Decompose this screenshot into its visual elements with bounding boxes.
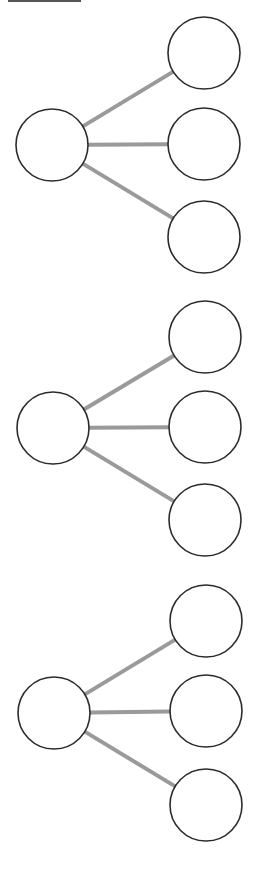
child-node-3 <box>168 201 240 273</box>
child-node-2 <box>168 108 240 180</box>
tree-group-2 <box>17 301 241 556</box>
child-node-3 <box>170 769 242 841</box>
root-node <box>18 677 90 749</box>
tree-diagram <box>0 0 260 878</box>
edge-2 <box>89 427 169 428</box>
root-node <box>17 392 89 464</box>
edge-3 <box>83 164 173 219</box>
edge-3 <box>84 447 174 502</box>
tree-group-1 <box>16 17 240 273</box>
edge-3 <box>85 732 175 787</box>
child-node-2 <box>170 675 242 747</box>
root-node <box>16 109 88 181</box>
child-node-1 <box>168 17 240 89</box>
child-node-3 <box>169 484 241 556</box>
child-node-1 <box>170 585 242 657</box>
edge-1 <box>84 355 174 409</box>
edge-1 <box>85 640 175 695</box>
child-node-1 <box>169 301 241 373</box>
child-node-2 <box>169 391 241 463</box>
edge-2 <box>90 711 170 712</box>
edge-2 <box>88 144 168 145</box>
tree-group-3 <box>18 585 242 841</box>
edge-1 <box>83 72 173 127</box>
